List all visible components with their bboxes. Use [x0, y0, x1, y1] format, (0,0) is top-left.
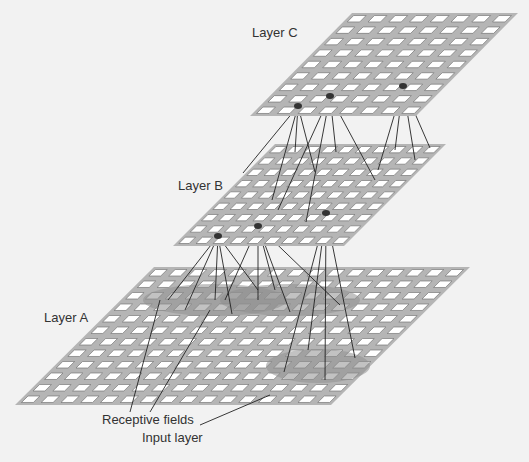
layer-b-label: Layer B	[178, 178, 223, 193]
diagram-canvas	[0, 0, 529, 462]
layer-c-label: Layer C	[252, 25, 298, 40]
receptive-fields-label: Receptive fields	[102, 412, 194, 427]
layer-plane-b	[173, 144, 446, 246]
receptive-field-diagram: Layer C Layer B Layer A Receptive fields…	[0, 0, 529, 462]
input-layer-label: Input layer	[142, 430, 203, 445]
layer-a-label: Layer A	[44, 310, 88, 325]
